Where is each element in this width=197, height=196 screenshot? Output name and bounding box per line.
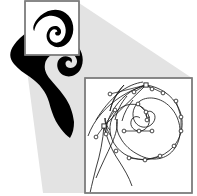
cp-node-3[interactable] (132, 90, 136, 94)
cp-node-19[interactable] (94, 135, 98, 139)
cp-node-14[interactable] (122, 129, 126, 133)
cp-node-15[interactable] (144, 110, 148, 114)
cp-node-10[interactable] (127, 156, 131, 160)
cp-node-9[interactable] (143, 158, 147, 162)
cp-node-13[interactable] (150, 129, 154, 133)
figure-root (0, 0, 197, 196)
cp-node-4[interactable] (174, 99, 178, 103)
magnified-outline-box-group (85, 78, 192, 193)
cp-node-18[interactable] (104, 132, 108, 136)
cp-node-11[interactable] (114, 149, 118, 153)
cp-node-8[interactable] (158, 154, 162, 158)
cp-node-1[interactable] (161, 91, 165, 95)
cp-node-20[interactable] (113, 108, 117, 112)
cp-node-5[interactable] (179, 115, 183, 119)
cp-node-17[interactable] (136, 102, 140, 106)
magnified-outline-box (85, 78, 192, 193)
cp-anchor-mid[interactable] (102, 124, 106, 128)
cp-anchor-top[interactable] (144, 83, 148, 87)
cp-node-6[interactable] (179, 129, 183, 133)
cp-node-7[interactable] (172, 144, 176, 148)
cp-node-21[interactable] (108, 92, 112, 96)
figure-canvas (0, 0, 197, 196)
cp-node-2[interactable] (150, 87, 154, 91)
cp-node-12[interactable] (137, 129, 141, 133)
magnifier-selection-box-group (25, 1, 79, 55)
cp-node-16[interactable] (145, 118, 149, 122)
